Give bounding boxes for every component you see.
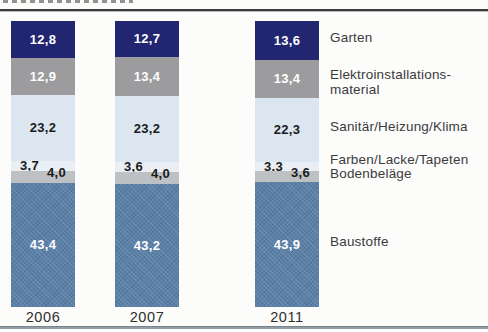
- value-label-2006-5: 4,0: [38, 166, 75, 180]
- legend-label-elektroinstallationsmaterial: Elektroinstallations- material: [330, 68, 451, 97]
- value-label-2006-6: 43,4: [11, 238, 75, 252]
- x-axis-label-2007: 2007: [115, 309, 179, 325]
- value-label-2011-1: 13,6: [255, 34, 319, 48]
- legend-label-sanit-r-heizung-klima: Sanitär/Heizung/Klima: [330, 120, 468, 135]
- stacked-bar-2011: 13,613,422,33,33,643,92011: [255, 21, 319, 307]
- chart-area: 12,812,923,23,74,043,4200612,713,423,23,…: [0, 0, 488, 332]
- chart-figure: 12,812,923,23,74,043,4200612,713,423,23,…: [0, 0, 488, 332]
- legend-label-bodenbel-ge: Bodenbeläge: [330, 167, 412, 182]
- stacked-bar-2006: 12,812,923,23,74,043,42006: [11, 21, 75, 307]
- value-label-2011-3: 22,3: [255, 123, 319, 137]
- value-label-2007-3: 23,2: [115, 122, 179, 136]
- value-label-2011-5: 3,6: [282, 166, 319, 180]
- value-label-2007-6: 43,2: [115, 239, 179, 253]
- x-axis-label-2006: 2006: [11, 309, 75, 325]
- x-axis-label-2011: 2011: [255, 309, 319, 325]
- value-label-2007-1: 12,7: [115, 32, 179, 46]
- bottom-divider-rule: [0, 326, 488, 329]
- value-label-2006-1: 12,8: [11, 33, 75, 47]
- value-label-2007-5: 4,0: [142, 167, 179, 181]
- legend-label-garten: Garten: [330, 31, 372, 46]
- value-label-2006-2: 12,9: [11, 70, 75, 84]
- value-label-2006-3: 23,2: [11, 121, 75, 135]
- value-label-2007-2: 13,4: [115, 70, 179, 84]
- legend-label-baustoffe: Baustoffe: [330, 235, 389, 250]
- stacked-bar-2007: 12,713,423,23,64,043,22007: [115, 21, 179, 307]
- value-label-2011-2: 13,4: [255, 72, 319, 86]
- value-label-2011-6: 43,9: [255, 238, 319, 252]
